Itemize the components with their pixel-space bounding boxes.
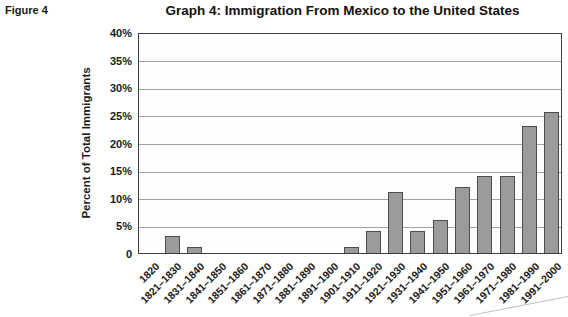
gridline — [139, 227, 561, 228]
bar-1941–1950 — [433, 220, 448, 253]
bar-1971–1980 — [500, 176, 515, 253]
y-tick-label: 10% — [96, 193, 132, 205]
chart-title: Graph 4: Immigration From Mexico to the … — [120, 3, 565, 18]
y-tick-label: 35% — [96, 55, 132, 67]
bar-1991–2000 — [544, 112, 559, 253]
y-tick-label: 25% — [96, 110, 132, 122]
y-tick-label: 5% — [96, 220, 132, 232]
bar-1911–1920 — [366, 231, 381, 253]
gridline — [139, 89, 561, 90]
gridline — [139, 61, 561, 62]
y-tick-label: 40% — [96, 27, 132, 39]
gridline — [139, 172, 561, 173]
y-tick-label: 30% — [96, 82, 132, 94]
bar-1901–1910 — [344, 247, 359, 253]
y-tick-label: 15% — [96, 165, 132, 177]
plot-area — [138, 33, 562, 254]
bar-1921–1930 — [388, 192, 403, 253]
figure-label: Figure 4 — [5, 4, 48, 16]
bar-1931–1940 — [410, 231, 425, 253]
bar-1821–1830 — [165, 236, 180, 253]
bar-1961–1970 — [477, 176, 492, 253]
bar-1981–1990 — [522, 126, 537, 253]
y-tick-label: 20% — [96, 138, 132, 150]
gridline — [139, 199, 561, 200]
bar-1831–1840 — [187, 247, 202, 253]
y-tick-label: 0 — [96, 248, 141, 260]
bar-1951–1960 — [455, 187, 470, 253]
gridline — [139, 116, 561, 117]
y-axis-title: Percent of Total Immigrants — [80, 67, 92, 218]
gridline — [139, 144, 561, 145]
